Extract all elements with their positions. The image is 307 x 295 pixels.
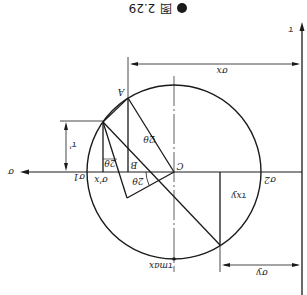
angle-2theta-mid: 2θ: [104, 158, 117, 168]
sigma-2-label: σ2: [264, 175, 276, 185]
mohr-circle-diagram: 图 2.29 τ σ σx: [0, 0, 307, 295]
point-c-label: C: [176, 161, 183, 171]
sigma-x-dimension: σx: [128, 57, 300, 98]
tau-prime-dimension: τ': [60, 121, 103, 171]
caption-icon: 图: [160, 1, 172, 15]
sigma-y-label: σy: [255, 268, 267, 278]
tau-prime-label: τ': [69, 140, 76, 150]
tau-max-point: [172, 257, 176, 261]
angle-2theta-lower: 2θ: [132, 176, 145, 186]
sigma-axis-label: σ: [7, 167, 14, 177]
sigma-1-label: σ1: [73, 172, 85, 182]
angle-2theta-upper: 2θ: [143, 134, 156, 144]
sigma-x-prime-label: σ'x: [94, 175, 108, 185]
diameter-line: [103, 122, 220, 245]
point-b-label: B: [130, 160, 138, 170]
figure-caption: 图 2.29: [129, 1, 187, 15]
caption-number: 2.29: [129, 1, 156, 15]
sigma-y-dimension: σy: [220, 245, 300, 278]
tau-xy-label: τxy: [231, 191, 247, 201]
tau-axis: τ: [287, 22, 304, 295]
sigma-x-label: σx: [216, 66, 227, 76]
tau-max-label: τmax: [149, 261, 173, 271]
tau-axis-label: τ: [287, 25, 293, 35]
bullet-icon: [177, 3, 187, 13]
point-a-label: A: [117, 87, 125, 97]
